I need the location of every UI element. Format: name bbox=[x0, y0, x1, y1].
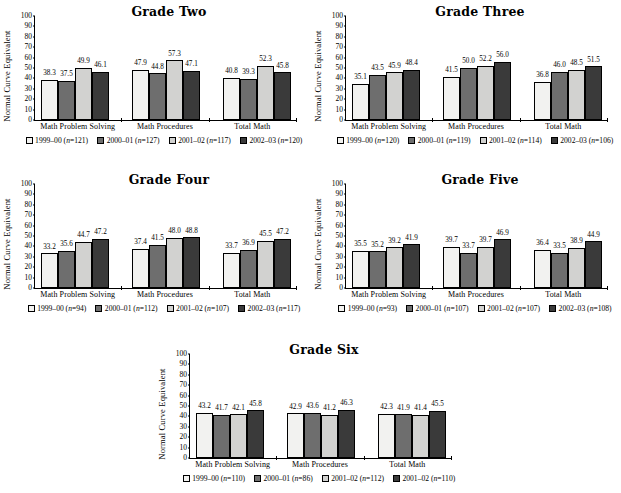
chart-panel-grade-three: Grade ThreeNormal Curve Equivalent010203… bbox=[311, 0, 621, 168]
bar bbox=[534, 82, 551, 120]
bar-value-label: 33.2 bbox=[43, 244, 56, 251]
legend-item[interactable]: 2000–01 (n=86) bbox=[254, 474, 313, 483]
bar-slot: 50.0 bbox=[460, 16, 477, 120]
bar-slot: 51.5 bbox=[585, 16, 602, 120]
legend-item[interactable]: 2001–02 (n=110) bbox=[393, 474, 455, 483]
legend-item[interactable]: 2000–01 (n=119) bbox=[408, 136, 470, 145]
bar-group: 36.846.048.551.5 bbox=[528, 16, 608, 120]
legend-label: 2001–02 (n=117) bbox=[178, 136, 231, 145]
bar-slot: 48.5 bbox=[568, 16, 585, 120]
bar-slot: 47.9 bbox=[132, 16, 149, 120]
legend-item[interactable]: 2000–01 (n=107) bbox=[406, 304, 469, 313]
legend-label: 2000–01 (n=107) bbox=[416, 304, 469, 313]
bar-groups: 38.337.549.946.147.944.857.347.140.839.3… bbox=[35, 16, 297, 120]
bar-value-label: 36.9 bbox=[242, 240, 255, 247]
legend-item[interactable]: 2001–02 (n=107) bbox=[478, 304, 541, 313]
y-axis-label: Normal Curve Equivalent bbox=[2, 192, 14, 296]
bar bbox=[369, 251, 386, 288]
bar-value-label: 42.1 bbox=[232, 405, 245, 412]
bar-group: 36.433.538.944.9 bbox=[528, 184, 608, 288]
bar-value-label: 46.0 bbox=[553, 62, 566, 69]
bar-value-label: 41.4 bbox=[414, 405, 427, 412]
category-separator-tick bbox=[296, 286, 297, 290]
bar bbox=[274, 239, 291, 288]
bar-group: 35.143.545.948.4 bbox=[346, 16, 426, 120]
bar-slot: 36.9 bbox=[240, 184, 257, 288]
bar-value-label: 41.5 bbox=[151, 235, 164, 242]
category-separator-tick bbox=[209, 286, 210, 290]
bar-slot: 45.8 bbox=[274, 16, 291, 120]
bar-slot: 41.7 bbox=[213, 354, 230, 458]
legend-item[interactable]: 2002–03 (n=117) bbox=[238, 304, 300, 313]
legend-item[interactable]: 2001–02 (n=114) bbox=[480, 136, 542, 145]
bar-slot: 38.3 bbox=[41, 16, 58, 120]
legend-label: 2000–01 (n=127) bbox=[107, 136, 160, 145]
legend-item[interactable]: 1999–00 (n=121) bbox=[26, 136, 89, 145]
legend-item[interactable]: 1999–00 (n=120) bbox=[337, 136, 400, 145]
y-axis-label: Normal Curve Equivalent bbox=[313, 192, 325, 296]
bar-value-label: 39.2 bbox=[388, 238, 401, 245]
category-label: Total Math bbox=[389, 460, 425, 469]
bar-slot: 46.1 bbox=[92, 16, 109, 120]
figure-panel-grid: Grade TwoNormal Curve Equivalent01020304… bbox=[0, 0, 621, 493]
bar-slot: 44.8 bbox=[149, 16, 166, 120]
legend-item[interactable]: 2001–02 (n=107) bbox=[167, 304, 230, 313]
bar-value-label: 46.3 bbox=[340, 400, 353, 407]
legend-swatch-icon bbox=[338, 305, 345, 312]
bar-value-label: 41.7 bbox=[215, 405, 228, 412]
legend-label: 2002–03 (n=108) bbox=[559, 304, 612, 313]
legend-label: 2000–01 (n=119) bbox=[418, 136, 471, 145]
bar-slot: 41.9 bbox=[395, 354, 412, 458]
legend-label: 2001–02 (n=107) bbox=[487, 304, 540, 313]
bar-slot: 39.7 bbox=[443, 184, 460, 288]
legend-item[interactable]: 2002–03 (n=108) bbox=[549, 304, 612, 313]
legend-label: 1999–00 (n=94) bbox=[37, 304, 86, 313]
bar-slot: 36.8 bbox=[534, 16, 551, 120]
bar bbox=[585, 241, 602, 288]
bar-slot: 41.4 bbox=[412, 354, 429, 458]
bar-value-label: 42.3 bbox=[380, 404, 393, 411]
bar-value-label: 42.9 bbox=[289, 404, 302, 411]
category-separator-tick bbox=[520, 286, 521, 290]
plot-area-grade-four: 010203040506070809010033.235.644.747.237… bbox=[34, 184, 297, 289]
legend-item[interactable]: 1999–00 (n=93) bbox=[338, 304, 397, 313]
bar-value-label: 36.4 bbox=[536, 240, 549, 247]
y-axis-label: Normal Curve Equivalent bbox=[313, 24, 325, 128]
legend-item[interactable]: 2002–03 (n=106) bbox=[551, 136, 614, 145]
bar-value-label: 41.2 bbox=[323, 405, 336, 412]
bar bbox=[477, 66, 494, 120]
bar-value-label: 41.9 bbox=[405, 235, 418, 242]
legend-item[interactable]: 2000–01 (n=112) bbox=[95, 304, 157, 313]
bar-value-label: 38.3 bbox=[43, 70, 56, 77]
bar-slot: 48.4 bbox=[403, 16, 420, 120]
legend-item[interactable]: 2001–02 (n=112) bbox=[322, 474, 384, 483]
bar-slot: 43.6 bbox=[304, 354, 321, 458]
bar bbox=[378, 414, 395, 458]
legend-item[interactable]: 1999–00 (n=110) bbox=[183, 474, 245, 483]
bar-slot: 35.1 bbox=[352, 16, 369, 120]
legend-item[interactable]: 2001–02 (n=117) bbox=[169, 136, 231, 145]
legend-item[interactable]: 2002–03 (n=120) bbox=[240, 136, 303, 145]
bar-slot: 47.1 bbox=[183, 16, 200, 120]
bar bbox=[166, 60, 183, 120]
bar bbox=[477, 247, 494, 288]
bar bbox=[196, 413, 213, 458]
y-axis-label: Normal Curve Equivalent bbox=[157, 362, 169, 466]
bar bbox=[551, 253, 568, 288]
category-label: Math Procedures bbox=[448, 122, 504, 131]
bar-group: 41.550.052.256.0 bbox=[437, 16, 517, 120]
bar-value-label: 48.4 bbox=[405, 60, 418, 67]
bar-slot: 43.2 bbox=[196, 354, 213, 458]
category-label: Math Procedures bbox=[137, 122, 193, 131]
bar-slot: 49.9 bbox=[75, 16, 92, 120]
legend-label: 2000–01 (n=86) bbox=[264, 474, 313, 483]
legend-item[interactable]: 2000–01 (n=127) bbox=[97, 136, 160, 145]
bar-slot: 41.5 bbox=[443, 16, 460, 120]
bar bbox=[213, 415, 230, 458]
bar-value-label: 40.8 bbox=[225, 68, 238, 75]
category-axis: Math Problem SolvingMath ProceduresTotal… bbox=[345, 122, 607, 134]
legend-item[interactable]: 1999–00 (n=94) bbox=[28, 304, 87, 313]
category-label: Total Math bbox=[234, 122, 270, 131]
bar bbox=[460, 68, 477, 120]
bar-value-label: 44.9 bbox=[587, 232, 600, 239]
